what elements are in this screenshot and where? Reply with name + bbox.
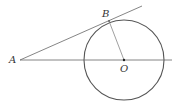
tangent-line-ab	[20, 6, 142, 60]
label-o: O	[120, 63, 128, 74]
tangent-point-b	[108, 20, 110, 22]
geometry-diagram: A B O	[0, 0, 180, 107]
center-point-o	[123, 59, 125, 61]
radius-ob	[109, 21, 124, 60]
label-a: A	[8, 54, 16, 65]
label-b: B	[101, 8, 109, 19]
